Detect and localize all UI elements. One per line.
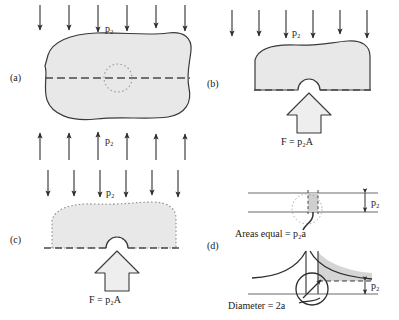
panel-label-c: (c) [10,234,21,245]
panel-a-body [45,33,191,120]
figure-root: (a) (b) (c) (d) p₂ p₂ p₂ F = p₂A p₂ F = … [0,0,399,320]
panel-d-lower-detail [248,251,378,305]
force-label-b: F = p₂A [281,136,313,147]
pressure-label-a-top: p₂ [105,23,114,34]
pressure-label-d-upper: p₂ [371,197,380,208]
panel-b [232,10,372,133]
force-label-c: F = p₂A [89,294,121,305]
pressure-label-c-top: p₂ [106,187,115,198]
panel-d-stress-curve-left [252,251,306,278]
areas-equal-label: Areas equal = p₂a [235,228,306,239]
pressure-label-b-top: p₂ [292,27,301,38]
panel-label-b: (b) [207,78,219,89]
diameter-label: Diameter = 2a [228,300,285,311]
panel-c-force-arrow [95,251,139,291]
pressure-label-a-bottom: p₂ [105,135,114,146]
panel-d-upper-shaded-strip [308,193,318,212]
figure-canvas [0,0,399,320]
panel-b-force-arrow [287,93,331,133]
panel-label-a: (a) [10,72,21,83]
panel-a [40,5,191,160]
panel-c-body [52,202,176,248]
pressure-label-d-lower: p₂ [371,280,380,291]
panel-d [248,190,378,305]
panel-label-d: (d) [207,240,219,251]
panel-d-diameter-leader [299,298,320,303]
panel-d-upper-detail [248,190,378,230]
panel-b-body [255,41,370,90]
